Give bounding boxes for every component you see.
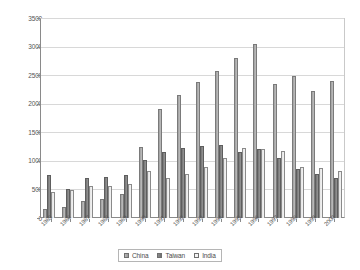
bar-india-1998: [300, 167, 304, 218]
bar-india-1991: [166, 178, 170, 218]
legend-item-india: India: [194, 252, 216, 259]
bar-india-1989: [128, 184, 132, 218]
bar-india-1986: [70, 190, 74, 218]
x-axis-tick: 1999: [307, 219, 323, 249]
x-axis-tick: 1985: [43, 219, 59, 249]
bar-india-1996: [261, 149, 265, 218]
x-axis-tick: 2000: [326, 219, 342, 249]
y-axis-tick-label: 3000: [2, 43, 42, 50]
legend-swatch-india: [194, 253, 199, 258]
y-axis-tick-label: 2000: [2, 100, 42, 107]
bar-group-1997: [273, 19, 285, 218]
x-axis-tick: 1989: [118, 219, 134, 249]
bar-group-1991: [158, 19, 170, 218]
legend-label-taiwan: Taiwan: [165, 252, 185, 259]
bar-group-1992: [177, 19, 189, 218]
y-axis-tick-label: 1000: [2, 157, 42, 164]
x-axis-tick: 1993: [194, 219, 210, 249]
bar-india-2000: [338, 171, 342, 218]
x-axis: 1985198619871988198919901991199219931994…: [41, 219, 344, 249]
legend-swatch-china: [124, 253, 129, 258]
legend-swatch-taiwan: [157, 253, 162, 258]
legend-label-china: China: [132, 252, 148, 259]
bar-india-1993: [204, 167, 208, 218]
bar-chart: 0500100015002000250030003500 19851986198…: [0, 0, 360, 270]
x-axis-tick: 1987: [81, 219, 97, 249]
x-axis-tick: 1988: [100, 219, 116, 249]
legend-label-india: India: [202, 252, 216, 259]
x-axis-tick: 1994: [213, 219, 229, 249]
x-axis-tick: 1996: [250, 219, 266, 249]
bar-group-1988: [100, 19, 112, 218]
bar-groups: [41, 19, 344, 218]
x-axis-tick: 1991: [156, 219, 172, 249]
bar-group-1990: [139, 19, 151, 218]
bar-india-1997: [281, 151, 285, 218]
bar-group-1987: [81, 19, 93, 218]
x-axis-tick: 1992: [175, 219, 191, 249]
bar-group-1996: [253, 19, 265, 218]
x-axis-tick: 1995: [232, 219, 248, 249]
bar-india-1985: [51, 192, 55, 218]
x-axis-tick: 1986: [62, 219, 78, 249]
bar-group-2000: [330, 19, 342, 218]
bar-india-1987: [89, 186, 93, 218]
y-axis-tick-label: 2500: [2, 72, 42, 79]
bar-india-1999: [319, 168, 323, 218]
bar-india-1990: [147, 171, 151, 218]
bar-group-1986: [62, 19, 74, 218]
bar-india-1992: [185, 174, 189, 218]
x-axis-tick: 1997: [269, 219, 285, 249]
y-axis-tick-label: 500: [2, 186, 42, 193]
bar-group-1998: [292, 19, 304, 218]
bar-india-1988: [108, 186, 112, 218]
y-axis-tick-label: 1500: [2, 129, 42, 136]
x-axis-tick: 1998: [288, 219, 304, 249]
y-axis-tick-label: 0: [2, 215, 42, 222]
bar-group-1994: [215, 19, 227, 218]
bar-group-1985: [43, 19, 55, 218]
bar-group-1995: [234, 19, 246, 218]
legend-item-taiwan: Taiwan: [157, 252, 185, 259]
bar-india-1994: [223, 158, 227, 218]
y-axis-tick-label: 3500: [2, 15, 42, 22]
bar-group-1989: [120, 19, 132, 218]
legend-item-china: China: [124, 252, 148, 259]
chart-legend: ChinaTaiwanIndia: [118, 249, 222, 262]
x-axis-tick: 1990: [137, 219, 153, 249]
bar-group-1993: [196, 19, 208, 218]
bar-india-1995: [242, 148, 246, 218]
bar-group-1999: [311, 19, 323, 218]
y-axis-tick-mark: [37, 218, 40, 219]
